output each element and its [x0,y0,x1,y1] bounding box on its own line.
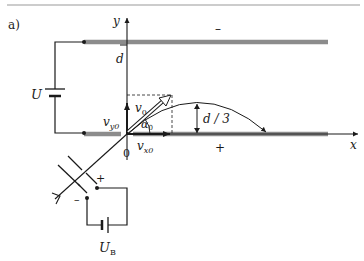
x-axis-label: x [350,138,357,152]
gun-beam-line [55,134,127,199]
peak-height-label: d / 3 [203,112,230,126]
gun-plus-sign: + [96,172,105,185]
gun-minus-sign: – [74,193,80,206]
plate-circuit [45,40,86,135]
origin-label: 0 [123,147,130,160]
electron-deflection-diagram: a) – + U y x 0 d v0 vy0 vx0 α0 d / 3 [0,0,364,261]
gun-plate-inner-upper [68,156,82,170]
node-dot [95,186,99,190]
accelerating-voltage-label: UB [99,240,116,257]
node-dot [82,131,86,135]
bottom-plate-sign: + [215,141,225,155]
top-plate-sign: – [215,22,221,36]
y-axis-label: y [112,14,120,28]
v0-label: v0 [135,101,147,117]
node-dot [82,40,86,44]
accelerating-circuit [85,186,127,233]
node-dot [85,196,89,200]
gun-plate-cathode [78,184,87,193]
vx0-label: vx0 [137,139,153,155]
vy0-label: vy0 [103,115,119,131]
plate-voltage-label: U [31,87,43,102]
gun-plate-outer [58,165,80,186]
peak-marker-arrow-up [194,104,200,109]
angle-label: α0 [141,118,153,132]
plate-separation-label: d [116,52,124,66]
panel-label: a) [8,18,20,32]
